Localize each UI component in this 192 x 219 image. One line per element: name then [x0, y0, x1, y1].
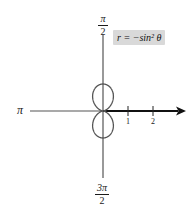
angle-label-3pi-over-2: 3π 2 [95, 183, 109, 206]
tick-label-1: 1 [126, 117, 130, 126]
label-denominator: 2 [101, 27, 106, 37]
angle-label-pi-over-2: π 2 [98, 14, 108, 37]
angle-label-pi: π [17, 104, 23, 116]
label-denominator: 2 [100, 196, 105, 206]
label-numerator: 3π [97, 183, 107, 193]
tick-label-2: 2 [151, 117, 155, 126]
label-numerator: π [100, 14, 105, 24]
equation-label: r = −sin² θ [113, 30, 165, 45]
